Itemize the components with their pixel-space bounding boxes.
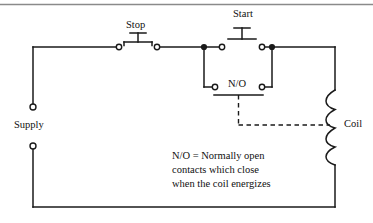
- supply-label: Supply: [14, 119, 44, 131]
- start-terminal-right: [259, 44, 264, 49]
- legend-line-2: contacts which close: [172, 163, 271, 177]
- coil-winding: [326, 90, 335, 165]
- no-terminal-right: [259, 84, 264, 89]
- stop-terminal-left: [116, 44, 121, 49]
- coil-label: Coil: [344, 118, 362, 130]
- start-terminal-left: [219, 44, 224, 49]
- start-label: Start: [233, 8, 253, 20]
- junction-dot-right: [269, 44, 275, 50]
- no-contact-label: N/O: [228, 78, 246, 90]
- legend-line-1: N/O = Normally open: [172, 149, 271, 163]
- circuit-diagram-figure: Stop Start N/O Coil Supply N/O = Normall…: [0, 0, 373, 223]
- legend-line-3: when the coil energizes: [172, 177, 271, 191]
- stop-label: Stop: [126, 19, 145, 31]
- supply-terminal-bottom: [30, 143, 36, 149]
- legend-caption: N/O = Normally open contacts which close…: [172, 149, 271, 191]
- stop-terminal-right: [154, 44, 159, 49]
- no-terminal-left: [212, 84, 217, 89]
- junction-dot-left: [201, 44, 207, 50]
- supply-terminal-top: [30, 104, 36, 110]
